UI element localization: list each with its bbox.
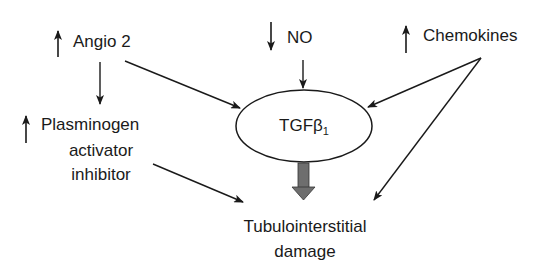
- node-pai-line1: Plasminogen: [41, 115, 139, 135]
- tgf-subscript: 1: [323, 125, 329, 137]
- edge-chemokines-to-damage: [374, 58, 481, 200]
- node-no: NO: [287, 28, 313, 48]
- node-pai-line3: inhibitor: [60, 165, 142, 185]
- node-tgf: TGFβ1: [254, 116, 354, 141]
- edge-chemokines-to-tgf: [368, 58, 481, 107]
- node-pai-line2: activator: [60, 141, 142, 161]
- node-angio2: Angio 2: [73, 32, 131, 52]
- tgf-label: TGFβ: [279, 116, 323, 135]
- edge-angio2-to-tgf: [125, 61, 240, 108]
- node-damage-line2: damage: [220, 242, 390, 262]
- node-damage-line1: Tubulointerstitial: [220, 217, 390, 237]
- node-chemokines: Chemokines: [423, 26, 518, 46]
- thick-arrow-tgf-to-damage: [292, 163, 315, 200]
- edge-pai-to-damage: [153, 164, 243, 202]
